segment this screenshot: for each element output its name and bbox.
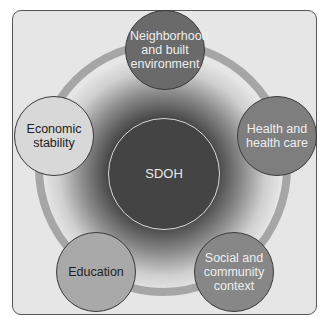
node-economic: Economic stability (14, 96, 94, 176)
node-social: Social and community context (194, 232, 274, 312)
node-label: Education (68, 265, 124, 279)
node-label: Neighborhood and built environment (130, 29, 200, 71)
node-label: Social and community context (201, 251, 267, 293)
node-label: Health and health care (244, 122, 310, 150)
node-neighborhood: Neighborhood and built environment (125, 10, 205, 90)
node-label: Economic stability (22, 122, 86, 150)
node-education: Education (56, 232, 136, 312)
node-health: Health and health care (237, 96, 317, 176)
center-label: SDOH (145, 167, 183, 181)
center-node-sdoh: SDOH (108, 118, 220, 230)
